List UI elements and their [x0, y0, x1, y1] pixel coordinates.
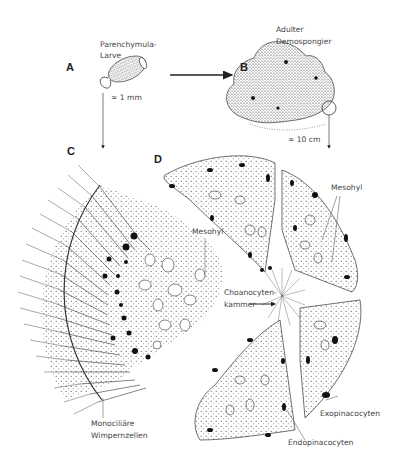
- exopinacocyten-label: Exopinacocyten: [320, 408, 380, 419]
- larva-title-line2: Larve: [100, 50, 121, 61]
- chamber-label-line1: Choanocyten-: [224, 287, 277, 298]
- chamber-label-line2: kammer: [224, 299, 256, 310]
- c-cells-label-line1: Monociliäre: [91, 418, 134, 429]
- endopinacocyten-label: Endopinacocyten: [288, 437, 353, 448]
- larva-title-line1: Parenchymula-: [100, 39, 157, 50]
- c-cells-label-line2: Wimpernzellen: [91, 430, 148, 441]
- c-mesohyl-label: Mesohyl: [192, 226, 223, 237]
- larva-section: [18, 165, 223, 414]
- adult-title-line2: Demospongier: [276, 36, 332, 47]
- adult-sponge-drawing: [227, 42, 336, 130]
- d-mesohyl-label: Mesohyl: [331, 182, 362, 193]
- panel-letter-d: D: [154, 153, 162, 165]
- adult-scale: ≈ 10 cm: [288, 134, 320, 145]
- larva-scale: ≈ 1 mm: [111, 92, 142, 103]
- adult-title-line1: Adulter: [276, 24, 304, 35]
- panel-letter-a: A: [66, 61, 74, 73]
- panel-letter-b: B: [240, 61, 248, 73]
- panel-letter-c: C: [67, 145, 75, 157]
